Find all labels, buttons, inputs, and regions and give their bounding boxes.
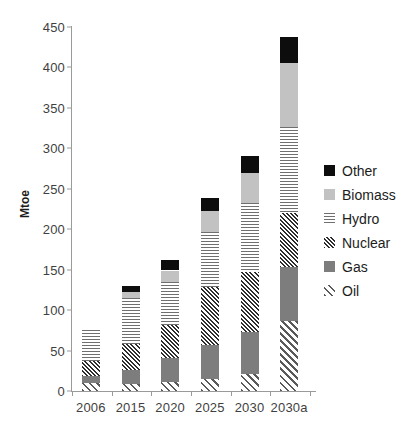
legend-item-oil[interactable]: Oil: [324, 280, 396, 301]
x-axis-line: [71, 391, 316, 392]
bar-segment-2030-biomass[interactable]: [241, 173, 259, 204]
bar-segment-2020-gas[interactable]: [161, 358, 179, 382]
x-axis-tick-label-2030: 2030: [235, 400, 265, 415]
bar-segment-2006-hydro[interactable]: [82, 330, 100, 361]
bar-segment-2025-other[interactable]: [201, 198, 219, 212]
bar-2020[interactable]: [161, 260, 179, 391]
bar-segment-2015-nuclear[interactable]: [122, 344, 140, 370]
bar-2006[interactable]: [82, 330, 100, 391]
y-axis-tick-label: 300: [5, 141, 72, 156]
y-axis-tick-mark: [67, 350, 72, 351]
bar-2030a[interactable]: [280, 37, 298, 391]
bar-segment-2030a-biomass[interactable]: [280, 63, 298, 126]
swatch-hydro-horizontal-lines-icon: [324, 213, 335, 224]
bar-segment-2030-other[interactable]: [241, 156, 259, 172]
y-axis-tick-label: 350: [5, 100, 72, 115]
bar-segment-2020-hydro[interactable]: [161, 282, 179, 325]
legend-label: Other: [342, 163, 377, 179]
legend-item-other[interactable]: Other: [324, 160, 396, 181]
y-axis-tick-mark: [67, 269, 72, 270]
bar-segment-2020-nuclear[interactable]: [161, 325, 179, 358]
bar-segment-2025-oil[interactable]: [201, 379, 219, 391]
bar-segment-2020-other[interactable]: [161, 260, 179, 271]
y-axis-tick-label: 150: [5, 262, 72, 277]
legend-item-nuclear[interactable]: Nuclear: [324, 232, 396, 253]
bar-2015[interactable]: [122, 286, 140, 391]
y-axis-tick-label: 250: [5, 181, 72, 196]
y-axis-tick-label: 450: [5, 20, 72, 35]
clipped-header-strip: [0, 0, 417, 5]
x-axis-tick-mark: [191, 391, 192, 396]
legend-label: Oil: [342, 283, 359, 299]
legend-label: Hydro: [342, 211, 379, 227]
bar-segment-2025-nuclear[interactable]: [201, 287, 219, 345]
legend-label: Nuclear: [342, 235, 390, 251]
y-axis-tick-mark: [67, 229, 72, 230]
bar-segment-2030a-hydro[interactable]: [280, 127, 298, 214]
x-axis-tick-mark: [151, 391, 152, 396]
x-axis-tick-mark: [310, 391, 311, 396]
bar-segment-2030-oil[interactable]: [241, 374, 259, 391]
bar-segment-2030-gas[interactable]: [241, 332, 259, 374]
swatch-biomass-light-gray-icon: [324, 189, 335, 200]
x-axis-tick-label-2006: 2006: [76, 400, 106, 415]
bar-2030[interactable]: [241, 156, 259, 391]
y-axis-tick-mark: [67, 148, 72, 149]
x-axis-tick-label-2030a: 2030a: [271, 400, 308, 415]
y-axis-tick-label: 50: [5, 343, 72, 358]
swatch-nuclear-crosshatch-icon: [324, 237, 335, 248]
stacked-bar-chart: Mtoe 050100150200250300350400450 OtherBi…: [0, 0, 417, 428]
y-axis-tick-mark: [67, 310, 72, 311]
y-axis-tick-label: 100: [5, 303, 72, 318]
legend-item-biomass[interactable]: Biomass: [324, 184, 396, 205]
legend-label: Gas: [342, 259, 368, 275]
y-axis-tick-label: 400: [5, 60, 72, 75]
bar-2025[interactable]: [201, 198, 219, 391]
y-axis-tick-mark: [67, 67, 72, 68]
swatch-oil-diagonal-hatch-icon: [324, 285, 335, 296]
bar-segment-2025-gas[interactable]: [201, 345, 219, 379]
x-axis-tick-mark: [231, 391, 232, 396]
bar-segment-2015-biomass[interactable]: [122, 292, 140, 298]
bar-segment-2025-hydro[interactable]: [201, 232, 219, 286]
bar-segment-2015-gas[interactable]: [122, 370, 140, 384]
legend-item-hydro[interactable]: Hydro: [324, 208, 396, 229]
bar-segment-2020-biomass[interactable]: [161, 271, 179, 282]
bar-segment-2006-nuclear[interactable]: [82, 361, 100, 376]
y-axis-tick-mark: [67, 188, 72, 189]
bar-segment-2006-gas[interactable]: [82, 376, 100, 382]
bar-segment-2020-oil[interactable]: [161, 382, 179, 391]
x-axis-tick-label-2020: 2020: [155, 400, 185, 415]
chart-legend: OtherBiomassHydroNuclearGasOil: [324, 160, 396, 304]
bar-segment-2030a-gas[interactable]: [280, 267, 298, 321]
bar-segment-2015-oil[interactable]: [122, 384, 140, 391]
bar-segment-2030a-other[interactable]: [280, 37, 298, 64]
bar-segment-2015-other[interactable]: [122, 286, 140, 292]
swatch-other-solid-black-icon: [324, 165, 335, 176]
bar-segment-2030-hydro[interactable]: [241, 203, 259, 272]
y-axis-tick-mark: [67, 107, 72, 108]
legend-item-gas[interactable]: Gas: [324, 256, 396, 277]
bar-segment-2015-hydro[interactable]: [122, 298, 140, 344]
bar-segment-2006-oil[interactable]: [82, 383, 100, 391]
legend-label: Biomass: [342, 187, 396, 203]
y-axis-tick-label: 200: [5, 222, 72, 237]
y-axis-tick-label: 0: [5, 384, 72, 399]
x-axis-tick-mark: [112, 391, 113, 396]
swatch-gas-medium-gray-icon: [324, 261, 335, 272]
bar-segment-2030a-nuclear[interactable]: [280, 213, 298, 267]
bar-segment-2030-nuclear[interactable]: [241, 272, 259, 332]
x-axis-tick-mark: [270, 391, 271, 396]
bar-segment-2025-biomass[interactable]: [201, 211, 219, 232]
x-axis-tick-label-2025: 2025: [195, 400, 225, 415]
y-axis-tick-mark: [67, 27, 72, 28]
x-axis-tick-mark: [72, 391, 73, 396]
x-axis-tick-label-2015: 2015: [116, 400, 146, 415]
bar-segment-2030a-oil[interactable]: [280, 321, 298, 391]
plot-area: 050100150200250300350400450: [72, 27, 310, 391]
